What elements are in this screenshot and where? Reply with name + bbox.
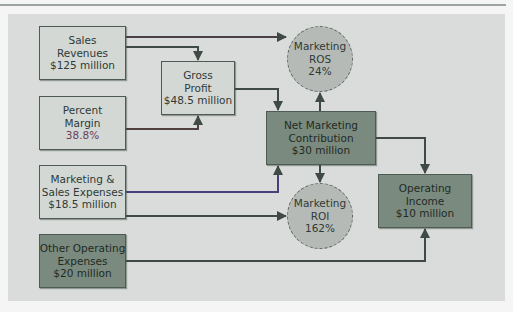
node-value: $30 million	[292, 144, 350, 157]
node-label: Sales	[69, 34, 97, 47]
node-label: Income	[406, 195, 445, 208]
node-other-operating-expenses: Other Operating Expenses $20 million	[39, 234, 126, 288]
node-label: Percent	[63, 104, 103, 117]
node-gross-profit: Gross Profit $48.5 million	[161, 61, 235, 115]
node-label: Margin	[65, 117, 101, 130]
node-label: ROS	[309, 53, 331, 66]
node-label: ROI	[311, 210, 330, 223]
node-marketing-roi: Marketing ROI 162%	[287, 183, 353, 249]
node-value: $18.5 million	[48, 198, 116, 211]
node-marketing-sales-expenses: Marketing & Sales Expenses $18.5 million	[39, 165, 126, 219]
node-label: Marketing &	[51, 173, 115, 186]
node-percent-margin: Percent Margin 38.8%	[39, 96, 126, 150]
node-label: Profit	[184, 82, 211, 95]
edge-mse-to-nmc	[126, 166, 278, 192]
node-label: Marketing	[294, 197, 346, 210]
node-value: $48.5 million	[164, 94, 232, 107]
node-label: Marketing	[294, 40, 346, 53]
node-marketing-ros: Marketing ROS 24%	[287, 26, 353, 92]
node-label: Revenues	[57, 47, 108, 60]
edge-sales-to-gross-profit	[126, 47, 198, 60]
node-value: 162%	[305, 222, 335, 235]
edge-margin-to-gross-profit	[126, 116, 198, 129]
node-operating-income: Operating Income $10 million	[378, 174, 472, 228]
node-label: Expenses	[57, 255, 107, 268]
node-value: $10 million	[396, 207, 454, 220]
edge-gross-profit-to-nmc	[235, 89, 278, 110]
node-label: Net Marketing	[284, 119, 358, 132]
node-label: Operating	[399, 182, 452, 195]
node-value: $125 million	[50, 59, 115, 72]
node-net-marketing-contribution: Net Marketing Contribution $30 million	[266, 111, 376, 165]
node-label: Gross	[183, 69, 213, 82]
node-value: $20 million	[53, 267, 111, 280]
edge-nmc-to-oi	[376, 138, 425, 173]
edge-ooe-to-oi	[126, 229, 425, 261]
node-label: Other Operating	[40, 242, 126, 255]
node-label: Contribution	[288, 132, 353, 145]
node-label: Sales Expenses	[42, 186, 123, 199]
node-sales-revenues: Sales Revenues $125 million	[39, 26, 126, 80]
node-value: 24%	[308, 65, 331, 78]
node-value: 38.8%	[66, 129, 99, 142]
